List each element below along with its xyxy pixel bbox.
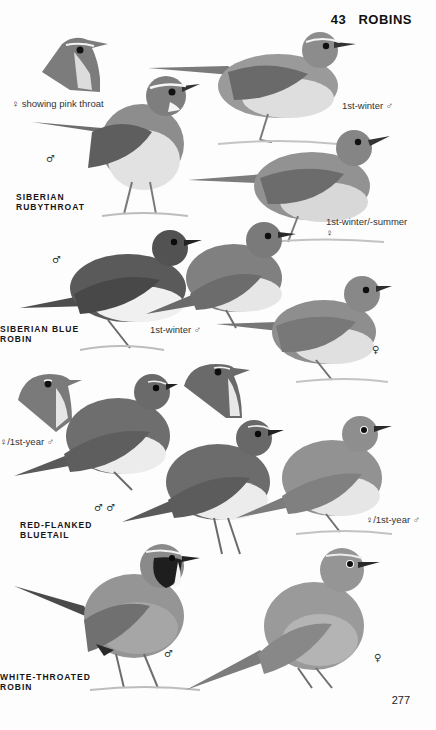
species-name-line1: SIBERIAN — [16, 192, 85, 202]
white-throated-robin-female-illustration — [186, 544, 382, 692]
bluetail-male-head-illustration — [182, 360, 250, 420]
species-name-siberian-rubythroat: SIBERIAN RUBYTHROAT — [16, 192, 85, 212]
species-name-red-flanked-bluetail: RED-FLANKED BLUETAIL — [20, 520, 92, 540]
white-throated-robin-male-illustration — [14, 540, 200, 692]
species-name-line2: ROBIN — [0, 682, 91, 692]
species-name-line2: ROBIN — [0, 334, 79, 344]
plate-number: 43 — [331, 12, 346, 27]
species-name-line1: WHITE-THROATED — [0, 672, 91, 682]
caption-white-throated-female: ♀ — [374, 652, 381, 663]
species-name-white-throated-robin: WHITE-THROATED ROBIN — [0, 672, 91, 692]
caption-bluetail-female: ♀/1st-year ♂ — [366, 514, 420, 525]
species-name-line2: BLUETAIL — [20, 530, 92, 540]
caption-rubythroat-female-line1: 1st-winter/-summer — [326, 216, 407, 227]
caption-blue-robin-1st-winter: 1st-winter ♂ — [150, 324, 201, 335]
caption-rubythroat-female-line2: ♀ — [326, 227, 333, 238]
field-guide-plate: 43 ROBINS ♀ showing pink throat ♂ — [0, 0, 436, 730]
plate-header: 43 ROBINS — [331, 12, 412, 27]
caption-white-throated-male: ♂ — [164, 648, 173, 659]
caption-rubythroat-male: ♂ — [46, 153, 55, 164]
page-number: 277 — [392, 694, 410, 706]
species-name-line1: SIBERIAN BLUE — [0, 324, 79, 334]
caption-bluetail-males: ♂ ♂ — [94, 502, 115, 513]
species-name-line1: RED-FLANKED — [20, 520, 92, 530]
species-name-siberian-blue-robin: SIBERIAN BLUE ROBIN — [0, 324, 79, 344]
plate-title: ROBINS — [358, 12, 412, 27]
caption-rubythroat-1st-winter: 1st-winter ♂ — [342, 100, 393, 111]
species-name-line2: RUBYTHROAT — [16, 202, 85, 212]
caption-blue-robin-female: ♀ — [372, 344, 379, 355]
